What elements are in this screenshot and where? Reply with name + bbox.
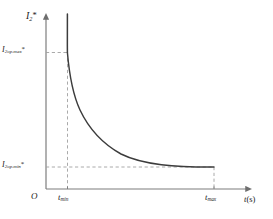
curve-decay-segment: [67, 53, 214, 168]
y-tick-lower-subscript: 2op.min: [5, 164, 21, 169]
origin-label: O: [31, 192, 38, 201]
x-axis-label: t(s): [244, 195, 255, 204]
x-tick-tmax-subscript: max: [207, 196, 216, 202]
y-axis-label: I2*: [26, 11, 37, 22]
x-tick-label-tmax: tmax: [205, 193, 216, 203]
x-tick-tmin-subscript: min: [60, 196, 68, 202]
figure-container: I2* I2op.max* I2op.min* tmin tmax O t(s): [0, 0, 273, 219]
y-axis-star: *: [32, 10, 36, 20]
guide-line-group: [46, 53, 214, 190]
plot-canvas: [0, 0, 273, 219]
x-axis-unit: (s): [246, 194, 255, 204]
characteristic-curve-group: [67, 14, 214, 167]
y-tick-label-lower: I2op.min*: [2, 161, 24, 170]
y-tick-label-upper: I2op.max*: [2, 46, 25, 55]
y-tick-upper-subscript: 2op.max: [5, 49, 22, 54]
y-tick-lower-star: *: [21, 160, 24, 167]
x-tick-label-tmin: tmin: [58, 193, 68, 203]
y-tick-upper-star: *: [22, 45, 25, 52]
axis-group: [46, 19, 246, 189]
